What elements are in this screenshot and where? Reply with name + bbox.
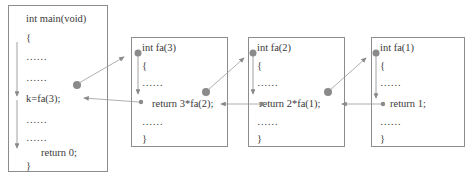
call-arrow-fa3-to-fa2-icon [202,58,244,96]
fa2-entry-dot-icon [250,50,257,57]
call-arrow-main-to-fa3-icon [73,57,124,89]
return-arrow-fa3-to-main-icon [84,98,143,104]
fa1-entry-dot-icon [373,50,380,57]
return-arrow-fa2-to-fa3-icon [221,102,264,106]
return-arrow-fa1-to-fa2-icon [342,102,385,106]
call-arrow-fa2-to-fa1-icon [324,58,366,96]
fa3-entry-dot-icon [135,50,142,57]
flow-arrows-layer [0,0,472,182]
